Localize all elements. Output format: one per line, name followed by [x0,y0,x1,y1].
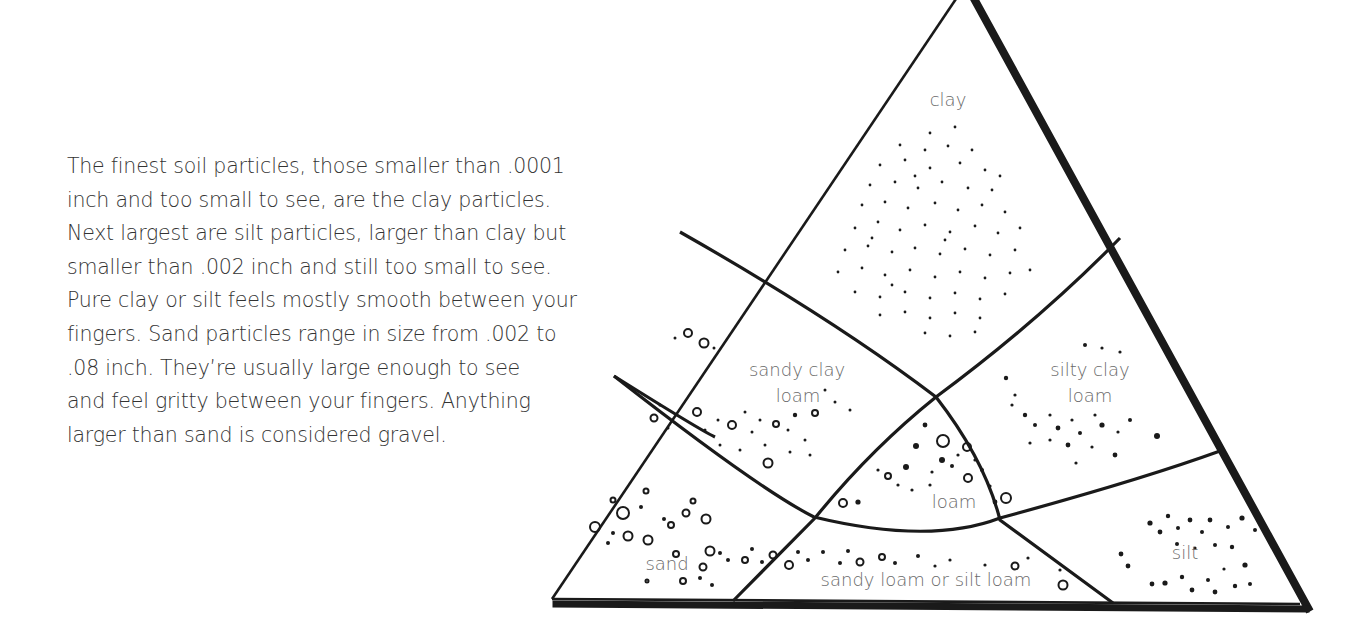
label-sandy-clay-loam-line1: sandy clay [749,359,845,380]
label-clay: clay [930,89,967,110]
triangle-outline [552,0,1300,604]
loam-particles [839,435,1011,507]
clay-particle-dots [837,126,1032,338]
region-labels: clay sandy clay loam silty clay loam loa… [645,89,1198,590]
label-sandy-loam-or-silt-loam: sandy loam or silt loam [821,569,1032,590]
label-sandy-clay-loam-line2: loam [776,385,821,406]
label-silty-clay-loam-line2: loam [1068,385,1113,406]
label-silt: silt [1172,542,1198,563]
label-silty-clay-loam-line1: silty clay [1050,359,1129,380]
label-loam: loam [932,491,977,512]
sand-dots [606,505,666,545]
label-sand: sand [645,553,688,574]
soil-texture-triangle: clay sandy clay loam silty clay loam loa… [0,0,1371,635]
